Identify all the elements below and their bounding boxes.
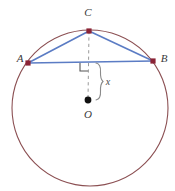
label-point-c: C xyxy=(84,6,92,18)
label-point-b: B xyxy=(161,52,168,64)
point-marker-a xyxy=(25,60,30,65)
point-marker-o xyxy=(85,97,92,104)
chord-cb-line xyxy=(89,31,153,61)
geometry-canvas: A B C O x xyxy=(0,0,175,191)
point-marker-c xyxy=(86,28,91,33)
label-point-o: O xyxy=(84,108,92,120)
label-measure-x: x xyxy=(105,76,111,87)
point-marker-b xyxy=(150,58,155,63)
chord-ac-line xyxy=(28,31,89,63)
right-angle-marker xyxy=(80,63,88,71)
label-point-a: A xyxy=(16,52,24,64)
chord-ab-line xyxy=(28,61,153,63)
apothem-dashed-line xyxy=(88,31,89,100)
measure-brace xyxy=(96,63,103,100)
geometry-diagram: A B C O x xyxy=(0,0,175,191)
